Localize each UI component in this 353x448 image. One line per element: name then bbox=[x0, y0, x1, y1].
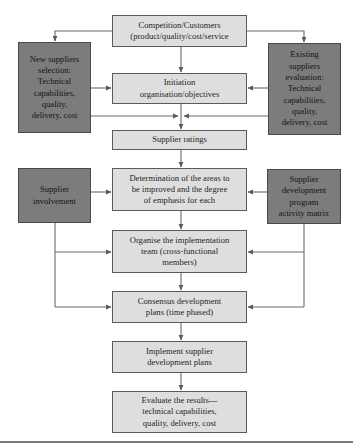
bottom-divider bbox=[0, 441, 353, 443]
node-label: Existing suppliers evaluation: Technical… bbox=[282, 49, 328, 128]
node-label: Supplier ratings bbox=[152, 134, 207, 145]
node-existing-suppliers-evaluation: Existing suppliers evaluation: Technical… bbox=[268, 43, 341, 135]
node-evaluate-results: Evaluate the results— technical capabili… bbox=[112, 391, 247, 433]
node-label: Determination of the areas to be improve… bbox=[129, 173, 229, 207]
node-organise-team: Organise the implementation team (cross-… bbox=[112, 230, 247, 273]
node-implement-plans: Implement supplier development plans bbox=[112, 341, 247, 373]
node-label: Evaluate the results— technical capabili… bbox=[142, 395, 218, 429]
node-label: New suppliers selection: Technical capab… bbox=[30, 54, 79, 122]
node-supplier-involvement: Supplier involvement bbox=[18, 168, 91, 223]
arrow-competition-to-new-suppliers bbox=[55, 31, 112, 41]
node-label: Organise the implementation team (cross-… bbox=[130, 235, 230, 269]
node-label: Implement supplier development plans bbox=[146, 346, 213, 369]
node-competition-customers: Competition/Customers (product/quality/c… bbox=[112, 15, 247, 47]
node-label: Competition/Customers (product/quality/c… bbox=[130, 20, 228, 43]
node-determination: Determination of the areas to be improve… bbox=[112, 168, 247, 211]
node-initiation: Initiation organisation/objectives bbox=[112, 73, 247, 104]
node-development-program-matrix: Supplier development program activity ma… bbox=[267, 169, 341, 224]
node-label: Supplier involvement bbox=[33, 184, 76, 207]
node-label: Consensus development plans (time phased… bbox=[138, 296, 221, 319]
node-new-suppliers-selection: New suppliers selection: Technical capab… bbox=[18, 42, 91, 133]
node-label: Supplier development program activity ma… bbox=[279, 174, 329, 219]
arrow-competition-to-existing-suppliers bbox=[247, 31, 304, 42]
node-consensus-plans: Consensus development plans (time phased… bbox=[112, 291, 247, 323]
node-label: Initiation organisation/objectives bbox=[140, 77, 220, 100]
node-supplier-ratings: Supplier ratings bbox=[112, 130, 247, 150]
